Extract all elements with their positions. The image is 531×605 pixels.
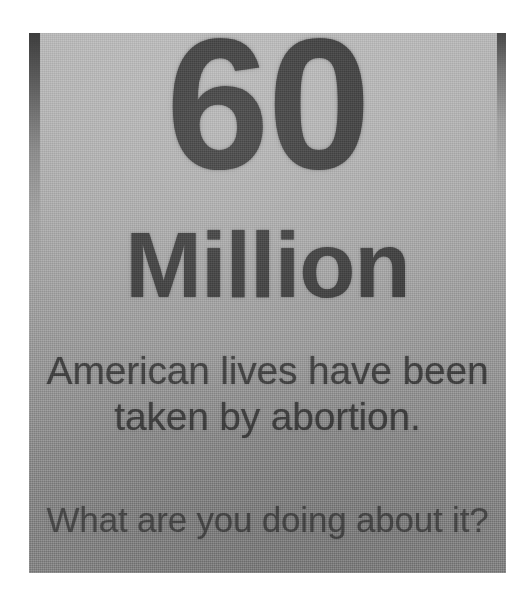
closing-question-line: What are you doing about it? [29,502,506,537]
body-line-1: American lives have been [29,349,506,393]
paper-sign: 60 Million American lives have been take… [29,33,506,573]
headline-number: 60 [29,33,506,197]
headline-unit: Million [29,219,506,311]
body-line-2: taken by abortion. [29,395,506,439]
photograph-frame: 60 Million American lives have been take… [0,0,531,605]
sign-text-block: 60 Million American lives have been take… [29,33,506,573]
